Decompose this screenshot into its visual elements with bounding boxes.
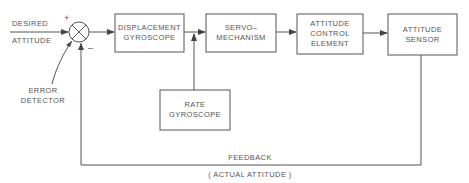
- servo-mechanism-block: SERVO– MECHANISM: [206, 14, 276, 52]
- block-label: DISPLACEMENT: [118, 23, 181, 33]
- block-label: ATTITUDE: [310, 19, 349, 29]
- error-detector-label-line2: DETECTOR: [18, 96, 68, 106]
- block-label: GYROSCOPE: [124, 33, 176, 43]
- block-label: SENSOR: [405, 35, 439, 45]
- error-detector-label-line1: ERROR: [18, 86, 68, 96]
- block-label: MECHANISM: [216, 33, 265, 43]
- block-label: GYROSCOPE: [169, 110, 221, 120]
- block-label: ELEMENT: [311, 39, 349, 49]
- feedback-line: [81, 43, 421, 165]
- attitude-control-element-block: ATTITUDE CONTROL ELEMENT: [297, 14, 363, 54]
- displacement-gyroscope-block: DISPLACEMENT GYROSCOPE: [115, 14, 184, 52]
- input-label-line2: ATTITUDE: [12, 36, 51, 46]
- feedback-label: FEEDBACK: [200, 153, 300, 163]
- minus-sign: –: [88, 43, 93, 53]
- plus-sign: +: [64, 13, 70, 23]
- block-label: CONTROL: [310, 29, 349, 39]
- block-label: ATTITUDE: [403, 25, 442, 35]
- input-label-line1: DESIRED: [12, 19, 48, 29]
- attitude-sensor-block: ATTITUDE SENSOR: [388, 14, 457, 55]
- rate-gyroscope-block: RATE GYROSCOPE: [160, 90, 230, 130]
- error-detector-leader: [52, 41, 72, 84]
- block-label: RATE: [184, 100, 205, 110]
- block-label: SERVO–: [225, 23, 258, 33]
- feedback-sublabel: ( ACTUAL ATTITUDE ): [190, 170, 310, 180]
